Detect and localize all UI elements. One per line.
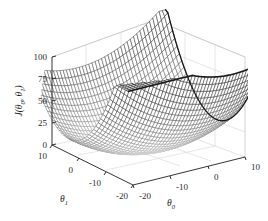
theta1-tick-label-0: 0 — [69, 165, 74, 175]
surface-cell — [254, 64, 260, 72]
theta0-tick-label-0: 0 — [214, 172, 219, 182]
theta1-axis-title: θ1 — [60, 194, 68, 206]
theta1-tick-label-neg20: -20 — [116, 191, 128, 201]
theta0-axis-title: θ0 — [167, 198, 176, 210]
surface-cell — [249, 72, 255, 80]
surface-cell — [248, 67, 254, 75]
surface-plot-svg: 100 75 50 25 0 10 0 -10 -20 -20 -10 0 10… — [0, 0, 268, 221]
theta1-tick-neg10 — [104, 172, 106, 175]
svg-text:θ0: θ0 — [167, 198, 176, 210]
theta1-tick-0 — [77, 158, 79, 161]
theta0-tick-label-neg20: -20 — [139, 191, 151, 201]
z-axis-title-paren: ) — [14, 85, 25, 89]
z-axis-title: J(θ0, θ1) — [14, 85, 26, 116]
z-tick-label-25: 25 — [38, 118, 48, 128]
svg-text:θ1: θ1 — [60, 194, 68, 206]
surface-cell — [251, 65, 257, 73]
surface-cell — [255, 69, 261, 77]
theta0-tick-neg20 — [133, 185, 134, 188]
surface-cell — [252, 70, 258, 78]
theta1-tick-10 — [50, 145, 52, 148]
cost-surface-mesh — [31, 10, 263, 155]
z-tick-100 — [52, 56, 56, 57]
figure-container: 100 75 50 25 0 10 0 -10 -20 -20 -10 0 10… — [0, 0, 268, 221]
surface-cell — [250, 81, 256, 88]
theta1-tick-label-neg10: -10 — [89, 178, 101, 188]
z-tick-label-100: 100 — [34, 52, 48, 62]
theta0-axis-title-sub: 0 — [172, 203, 176, 210]
z-tick-label-50: 50 — [38, 96, 48, 106]
theta1-tick-label-10: 10 — [38, 151, 48, 161]
surface-cell — [253, 75, 259, 83]
theta0-tick-10 — [245, 157, 246, 160]
z-tick-label-75: 75 — [38, 74, 48, 84]
theta0-tick-label-10: 10 — [251, 162, 261, 172]
theta0-tick-neg10 — [170, 176, 171, 179]
surface-cell — [248, 86, 254, 93]
svg-text:J(θ0, θ1): J(θ0, θ1) — [14, 85, 26, 116]
theta0-axis-line — [133, 157, 245, 185]
surface-cell — [31, 68, 37, 76]
surface-cell — [257, 62, 263, 70]
z-tick-label-0: 0 — [43, 140, 48, 150]
z-tick-0 — [52, 144, 56, 145]
theta0-tick-label-neg10: -10 — [176, 182, 188, 192]
theta1-axis-title-sub: 1 — [65, 199, 68, 206]
z-tick-labels: 100 75 50 25 0 — [34, 52, 48, 150]
surface-cell — [249, 77, 255, 85]
